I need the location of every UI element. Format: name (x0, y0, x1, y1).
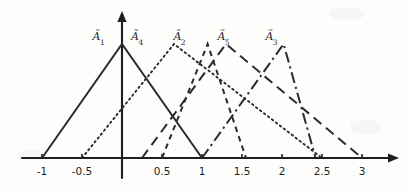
x-tick-label: -0.5 (62, 166, 102, 177)
series-line-a5 (162, 44, 246, 158)
series-group (42, 44, 362, 158)
x-tick-label: 1 (182, 166, 222, 177)
x-tick-label: 2 (262, 166, 302, 177)
label-a3: Ã3 (265, 31, 278, 45)
series-line-a2 (142, 44, 362, 158)
x-axis-arrowhead (388, 153, 399, 162)
y-axis-arrowhead (117, 11, 126, 22)
x-tick-label: -1 (22, 166, 62, 177)
label-a2: Ã2 (173, 31, 186, 45)
x-tick-label: 0.5 (142, 166, 182, 177)
series-line-a3 (202, 44, 316, 158)
label-a5: Ã5 (217, 31, 230, 45)
x-tick-label: 3 (342, 166, 382, 177)
axes-group (22, 11, 399, 178)
x-tick-label: 1.5 (222, 166, 262, 177)
fuzzy-membership-chart: Ã1Ã4Ã2Ã5Ã3 -1-0.50.511.522.53 (0, 0, 406, 195)
x-tick-label: 2.5 (302, 166, 342, 177)
label-a1: Ã1 (93, 31, 106, 45)
label-a4: Ã4 (131, 31, 144, 45)
series-line-a4 (82, 44, 322, 158)
